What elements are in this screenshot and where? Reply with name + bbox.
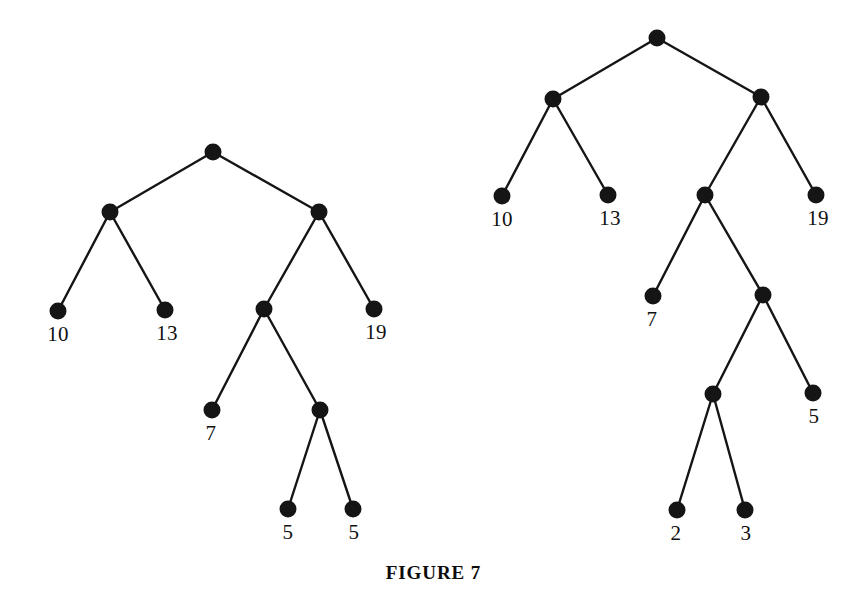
tree-node-label: 5 xyxy=(809,406,820,427)
tree-internal-node xyxy=(311,204,328,221)
tree-edge xyxy=(553,99,608,195)
tree-edge xyxy=(213,152,319,212)
tree-nodes-layer xyxy=(50,30,825,519)
tree-internal-node xyxy=(102,204,119,221)
tree-node-label: 19 xyxy=(807,208,829,229)
tree-edge xyxy=(110,152,213,212)
tree-node-label: 19 xyxy=(365,322,387,343)
tree-node-label: 5 xyxy=(349,522,360,543)
figure-caption: FIGURE 7 xyxy=(0,562,867,584)
tree-node-label: 7 xyxy=(647,309,658,330)
tree-internal-node xyxy=(312,402,329,419)
tree-internal-node xyxy=(545,91,562,108)
tree-edge xyxy=(653,195,705,296)
tree-internal-node xyxy=(755,287,772,304)
tree-leaf-node xyxy=(600,187,617,204)
tree-leaf-node xyxy=(345,501,362,518)
tree-edge xyxy=(713,295,763,394)
tree-edge xyxy=(502,99,553,196)
tree-edge xyxy=(264,309,320,410)
binary-tree-diagram-canvas xyxy=(0,0,867,598)
tree-internal-node xyxy=(753,89,770,106)
tree-node-label: 3 xyxy=(741,523,752,544)
tree-edge xyxy=(705,195,763,295)
tree-leaf-node xyxy=(645,288,662,305)
tree-edge xyxy=(288,410,320,509)
tree-edge xyxy=(763,295,813,393)
tree-edge xyxy=(657,38,761,97)
tree-edge xyxy=(713,394,745,510)
tree-internal-node xyxy=(697,187,714,204)
tree-leaf-node xyxy=(50,303,67,320)
tree-node-label: 5 xyxy=(283,522,294,543)
tree-internal-node xyxy=(205,144,222,161)
tree-node-label: 10 xyxy=(491,209,513,230)
tree-node-label: 2 xyxy=(671,523,682,544)
tree-leaf-node xyxy=(494,188,511,205)
tree-edge xyxy=(319,212,374,309)
tree-edges-layer xyxy=(58,38,816,510)
tree-node-label: 13 xyxy=(156,323,178,344)
tree-edge xyxy=(58,212,110,311)
tree-node-label: 13 xyxy=(599,208,621,229)
tree-edge xyxy=(110,212,165,310)
tree-edge xyxy=(761,97,816,195)
tree-leaf-node xyxy=(366,301,383,318)
figure-container: 1013197551013197523 FIGURE 7 xyxy=(0,0,867,598)
tree-edge xyxy=(320,410,353,509)
tree-node-label: 10 xyxy=(47,324,69,345)
tree-internal-node xyxy=(649,30,666,47)
tree-edge xyxy=(705,97,761,195)
tree-leaf-node xyxy=(669,502,686,519)
tree-internal-node xyxy=(256,301,273,318)
tree-leaf-node xyxy=(805,385,822,402)
tree-leaf-node xyxy=(808,187,825,204)
tree-node-label: 7 xyxy=(206,423,217,444)
tree-leaf-node xyxy=(157,302,174,319)
tree-leaf-node xyxy=(204,402,221,419)
tree-edge xyxy=(677,394,713,510)
tree-internal-node xyxy=(705,386,722,403)
tree-edge xyxy=(264,212,319,309)
tree-edge xyxy=(212,309,264,410)
tree-leaf-node xyxy=(737,502,754,519)
tree-leaf-node xyxy=(280,501,297,518)
tree-edge xyxy=(553,38,657,99)
